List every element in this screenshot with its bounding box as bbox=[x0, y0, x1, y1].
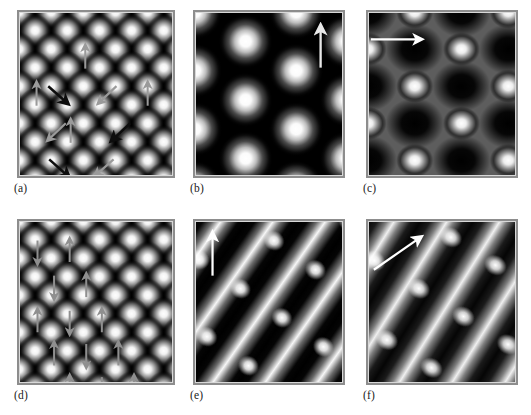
panel-b-frame bbox=[193, 10, 345, 178]
panel-a-image bbox=[19, 12, 173, 176]
panel-d-image bbox=[19, 221, 173, 383]
panel-label-f: (f) bbox=[363, 389, 375, 401]
panel-c-frame bbox=[366, 10, 518, 178]
panel-label-d: (d) bbox=[14, 389, 28, 401]
panel-a-frame bbox=[17, 10, 175, 178]
panel-d bbox=[17, 219, 175, 385]
panel-e-image bbox=[195, 221, 343, 383]
panel-f-image bbox=[368, 221, 516, 383]
panel-a bbox=[17, 10, 175, 178]
panel-c bbox=[366, 10, 518, 178]
panel-label-e: (e) bbox=[190, 389, 203, 401]
panel-c-image bbox=[368, 12, 516, 176]
panel-e bbox=[193, 219, 345, 385]
figure-panel-grid: (a) bbox=[0, 0, 531, 415]
panel-d-frame bbox=[17, 219, 175, 385]
panel-label-b: (b) bbox=[190, 182, 204, 194]
panel-b-image bbox=[195, 12, 343, 176]
panel-f-frame bbox=[366, 219, 518, 385]
panel-label-c: (c) bbox=[363, 182, 376, 194]
panel-f bbox=[366, 219, 518, 385]
panel-label-a: (a) bbox=[14, 182, 27, 194]
panel-b bbox=[193, 10, 345, 178]
panel-e-frame bbox=[193, 219, 345, 385]
